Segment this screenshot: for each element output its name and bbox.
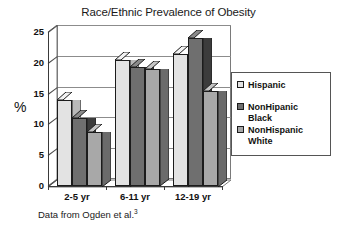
footnote-text: Data from Ogden et al. — [38, 209, 134, 220]
y-tick-label-0: 0 — [22, 181, 44, 191]
x-tick-mark — [164, 186, 165, 190]
bar-top-face — [130, 59, 145, 67]
bar-front-face — [57, 100, 72, 186]
bar-nonhipanic-black-6-11yr — [130, 67, 145, 186]
y-tick-label-10: 10 — [22, 119, 44, 129]
bar-front-face — [188, 38, 203, 186]
x-tick-label-2-5yr: 2-5 yr — [48, 191, 106, 202]
bar-front-face — [115, 60, 130, 186]
x-tick-mark — [106, 186, 107, 190]
bar-hispanic-12-19yr — [173, 54, 188, 186]
bar-front-face — [145, 69, 160, 186]
x-tick-label-12-19yr: 12-19 yr — [164, 191, 222, 202]
bar-top-face — [188, 30, 203, 38]
bar-nonhipanic-black-12-19yr — [188, 38, 203, 186]
x-tick-mark — [222, 186, 223, 190]
bar-top-face — [87, 124, 102, 132]
y-axis-line — [48, 32, 49, 186]
bar-side-face — [218, 91, 227, 187]
legend-swatch-nonhipanic-black — [237, 103, 244, 110]
gridline-25 — [57, 25, 231, 26]
bar-hispanic-6-11yr — [115, 60, 130, 186]
legend-swatch-hispanic — [237, 81, 244, 88]
chart-legend: Hispanic NonHipanic Black NonHispanic Wh… — [231, 72, 331, 156]
x-tick-label-6-11yr: 6-11 yr — [106, 191, 164, 202]
bar-front-face — [203, 91, 218, 187]
bar-top-face — [173, 46, 188, 54]
bar-top-face — [145, 61, 160, 69]
y-tick-label-25: 25 — [22, 27, 44, 37]
bar-hispanic-2-5yr — [57, 100, 72, 186]
legend-item-hispanic: Hispanic — [237, 80, 286, 91]
bar-front-face — [72, 118, 87, 186]
legend-label-nonhispanic-white: NonHispanic White — [248, 125, 303, 146]
bar-front-face — [173, 54, 188, 186]
legend-label-hispanic: Hispanic — [248, 80, 286, 91]
bar-side-face — [102, 132, 111, 186]
legend-label-nonhipanic-black: NonHipanic Black — [248, 102, 298, 123]
bar-top-face — [115, 52, 130, 60]
x-tick-mark — [48, 186, 49, 190]
chart-screenshot: Race/Ethnic Prevalence of Obesity % 25 2… — [0, 0, 337, 228]
bar-top-face — [57, 92, 72, 100]
bar-nonhipanic-black-2-5yr — [72, 118, 87, 186]
bar-top-face — [203, 83, 218, 91]
y-axis-tick-labels: 25 20 15 10 5 0 — [22, 32, 44, 186]
legend-item-nonhispanic-white: NonHispanic White — [237, 125, 303, 146]
bar-nonhispanic-white-2-5yr — [87, 132, 102, 186]
bar-nonhispanic-white-12-19yr — [203, 91, 218, 187]
y-tick-label-5: 5 — [22, 150, 44, 160]
footnote-superscript: 3 — [134, 208, 138, 215]
bar-front-face — [130, 67, 145, 186]
bar-nonhispanic-white-6-11yr — [145, 69, 160, 186]
legend-swatch-nonhispanic-white — [237, 126, 244, 133]
legend-item-nonhipanic-black: NonHipanic Black — [237, 102, 298, 123]
y-tick-label-20: 20 — [22, 58, 44, 68]
chart-title: Race/Ethnic Prevalence of Obesity — [0, 6, 337, 18]
bar-side-face — [160, 69, 169, 186]
chart-footnote: Data from Ogden et al.3 — [38, 208, 138, 220]
y-tick-label-15: 15 — [22, 89, 44, 99]
plot-area — [48, 32, 222, 186]
bar-front-face — [87, 132, 102, 186]
bar-top-face — [72, 110, 87, 118]
